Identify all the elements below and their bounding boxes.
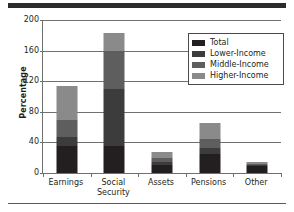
y-tick-label-120: 120	[24, 77, 39, 85]
y-tick-label-80: 80	[29, 108, 39, 116]
x-tick-mark	[186, 173, 187, 177]
gridline-0	[43, 173, 281, 174]
bar-segment[interactable]	[247, 166, 268, 173]
legend-item[interactable]: Higher-Income	[192, 70, 279, 81]
legend-item[interactable]: Lower-Income	[192, 48, 279, 59]
y-tick-label-200: 200	[24, 16, 39, 24]
bar-segment[interactable]	[104, 51, 125, 89]
chart-legend: TotalLower-IncomeMiddle-IncomeHigher-Inc…	[188, 33, 284, 85]
x-axis-labels: EarningsSocialSecurityAssetsPensionsOthe…	[42, 178, 280, 202]
bar-segment[interactable]	[56, 146, 77, 173]
x-tick-mark	[233, 173, 234, 177]
legend-swatch-icon	[192, 73, 205, 79]
legend-label: Lower-Income	[210, 49, 266, 58]
legend-item[interactable]: Total	[192, 37, 279, 48]
bar-segment[interactable]	[199, 139, 220, 148]
stacked-bar[interactable]	[56, 86, 77, 173]
bar-segment[interactable]	[104, 89, 125, 146]
x-axis-label-line: Security	[83, 188, 143, 198]
y-axis-title: Percentage	[19, 53, 28, 133]
stacked-bar[interactable]	[151, 152, 172, 173]
legend-swatch-icon	[192, 62, 205, 68]
x-axis-label-other: Other	[226, 178, 286, 188]
bar-group	[91, 20, 139, 173]
legend-label: Higher-Income	[210, 71, 268, 80]
legend-item[interactable]: Middle-Income	[192, 59, 279, 70]
x-tick-mark	[91, 173, 92, 177]
x-tick-mark	[281, 173, 282, 177]
y-tick-label-40: 40	[29, 138, 39, 146]
y-tick-label-160: 160	[24, 47, 39, 55]
bar-segment[interactable]	[199, 154, 220, 173]
stacked-bar-chart: Percentage 04080120160200 EarningsSocial…	[0, 10, 294, 202]
x-tick-mark	[138, 173, 139, 177]
stacked-bar[interactable]	[199, 123, 220, 173]
bottom-rule	[8, 203, 286, 204]
bar-segment[interactable]	[56, 86, 77, 120]
bar-segment[interactable]	[199, 123, 220, 138]
y-tick-label-0: 0	[34, 169, 39, 177]
stacked-bar[interactable]	[247, 162, 268, 173]
x-tick-mark	[43, 173, 44, 177]
legend-label: Total	[210, 38, 229, 47]
bar-segment[interactable]	[104, 146, 125, 173]
legend-swatch-icon	[192, 51, 205, 57]
bar-segment[interactable]	[151, 165, 172, 173]
legend-swatch-icon	[192, 40, 205, 46]
bar-segment[interactable]	[56, 120, 77, 137]
x-axis-label-line: Other	[226, 178, 286, 188]
bar-group	[43, 20, 91, 173]
stacked-bar[interactable]	[104, 33, 125, 173]
bar-segment[interactable]	[104, 33, 125, 51]
legend-label: Middle-Income	[210, 60, 269, 69]
bar-group	[138, 20, 186, 173]
top-rule	[8, 3, 286, 8]
bar-segment[interactable]	[56, 137, 77, 146]
